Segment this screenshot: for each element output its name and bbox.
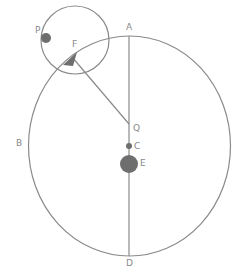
label-f: F — [72, 39, 77, 49]
label-d: D — [126, 258, 133, 268]
label-b: B — [16, 138, 22, 148]
label-a: A — [126, 22, 133, 32]
line-f-to-q — [72, 57, 129, 124]
arrow-f-icon — [63, 52, 77, 66]
point-e — [120, 155, 138, 173]
diagram-canvas: A B C D E F P Q — [0, 0, 248, 276]
label-p: P — [35, 25, 41, 35]
label-e: E — [140, 158, 146, 168]
label-q: Q — [133, 123, 140, 133]
label-c: C — [134, 141, 140, 151]
point-c — [126, 143, 132, 149]
point-p — [41, 33, 51, 43]
